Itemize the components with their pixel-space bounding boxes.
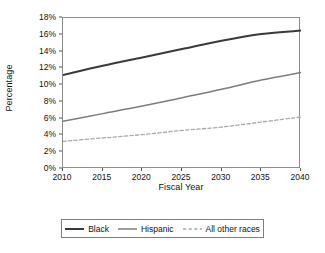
y-axis-tick-label: 0% — [26, 163, 56, 173]
y-axis-tick-label: 2% — [26, 146, 56, 156]
x-axis-tick-label: 2010 — [53, 172, 72, 182]
x-axis-tick-mark — [141, 168, 142, 171]
legend-item[interactable]: All other races — [183, 224, 260, 234]
y-axis-tick-label: 6% — [26, 113, 56, 123]
legend-item-label: Hispanic — [141, 224, 174, 234]
x-axis-tick-label: 2035 — [251, 172, 270, 182]
x-axis-tick-mark — [260, 168, 261, 171]
x-axis-title: Fiscal Year — [62, 182, 300, 192]
x-axis-tick-mark — [62, 168, 63, 171]
y-axis-title: Percentage — [4, 64, 14, 111]
y-axis-tick-label: 12% — [26, 62, 56, 72]
series-line — [63, 117, 301, 141]
x-axis-tick-label: 2015 — [92, 172, 111, 182]
legend-line-swatch-icon — [183, 225, 202, 233]
line-chart: Percentage 0%2%4%6%8%10%12%14%16%18% 201… — [0, 0, 325, 253]
x-axis-tick-label: 2025 — [172, 172, 191, 182]
series-line — [63, 73, 301, 122]
y-axis-tick-label: 14% — [26, 46, 56, 56]
y-axis-tick-label: 8% — [26, 96, 56, 106]
legend-item-label: Black — [88, 224, 109, 234]
y-axis-tick-label: 4% — [26, 129, 56, 139]
y-axis-tick-label: 16% — [26, 29, 56, 39]
legend-line-swatch-icon — [65, 225, 84, 233]
legend-item-label: All other races — [206, 224, 260, 234]
plot-area — [62, 17, 300, 168]
legend-line-swatch-icon — [118, 225, 137, 233]
x-axis-tick-label: 2040 — [291, 172, 310, 182]
x-axis-tick-mark — [221, 168, 222, 171]
y-axis-tick-label: 10% — [26, 79, 56, 89]
y-axis-tick-label: 18% — [26, 12, 56, 22]
y-axis-title-container: Percentage — [0, 0, 18, 175]
x-axis-tick-mark — [102, 168, 103, 171]
series-lines — [63, 18, 301, 169]
legend-item[interactable]: Hispanic — [118, 224, 174, 234]
x-axis-tick-mark — [181, 168, 182, 171]
x-axis-tick-label: 2020 — [132, 172, 151, 182]
series-line — [63, 31, 301, 75]
legend-item[interactable]: Black — [65, 224, 109, 234]
x-axis-tick-mark — [300, 168, 301, 171]
chart-legend: BlackHispanicAll other races — [61, 219, 264, 238]
x-axis-tick-label: 2030 — [211, 172, 230, 182]
